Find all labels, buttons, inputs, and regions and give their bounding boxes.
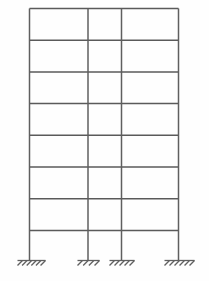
structural-frame-diagram <box>0 0 209 281</box>
diagram-background <box>0 0 209 281</box>
frame-svg-canvas <box>0 0 209 281</box>
